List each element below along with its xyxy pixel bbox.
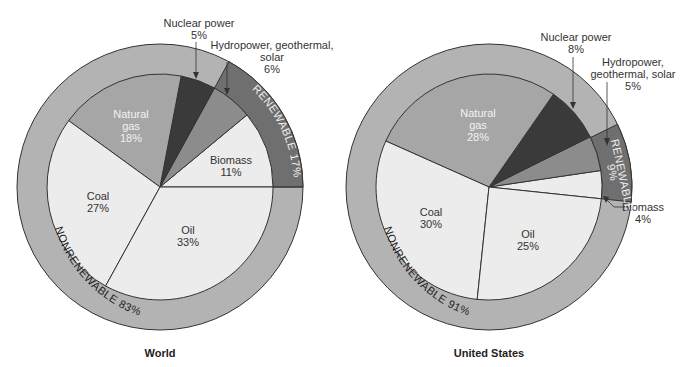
world-label-natural-gas-2: gas bbox=[122, 120, 140, 132]
us-pie: Natural gas 28% Coal 30% Oil 25% Nuclear… bbox=[346, 31, 676, 359]
world-title: World bbox=[145, 347, 176, 359]
us-title: United States bbox=[454, 347, 524, 359]
world-label-oil: Oil bbox=[181, 224, 194, 236]
us-label-hydro: Hydropower, bbox=[602, 56, 664, 68]
us-label-coal-pct: 30% bbox=[420, 218, 442, 230]
us-label-natural-gas-pct: 28% bbox=[467, 131, 489, 143]
chart-canvas: Natural gas 18% Coal 27% Oil 33% Biomass… bbox=[0, 0, 699, 367]
us-label-natural-gas: Natural bbox=[460, 107, 495, 119]
world-label-natural-gas: Natural bbox=[113, 108, 148, 120]
us-label-oil-pct: 25% bbox=[517, 240, 539, 252]
world-label-nuclear: Nuclear power bbox=[164, 17, 235, 29]
us-label-nuclear: Nuclear power bbox=[541, 31, 612, 43]
world-label-coal-pct: 27% bbox=[87, 202, 109, 214]
world-label-natural-gas-pct: 18% bbox=[120, 132, 142, 144]
us-label-biomass-pct: 4% bbox=[635, 213, 651, 225]
world-label-coal: Coal bbox=[87, 190, 110, 202]
world-label-hydro-2: solar bbox=[260, 51, 284, 63]
world-label-biomass: Biomass bbox=[210, 154, 253, 166]
us-label-nuclear-pct: 8% bbox=[568, 43, 584, 55]
us-label-hydro-2: geothermal, solar bbox=[591, 68, 676, 80]
us-label-hydro-pct: 5% bbox=[625, 80, 641, 92]
world-label-hydro: Hydropower, geothermal, bbox=[211, 39, 334, 51]
us-label-oil: Oil bbox=[521, 228, 534, 240]
us-label-coal: Coal bbox=[420, 206, 443, 218]
world-label-biomass-pct: 11% bbox=[220, 166, 241, 178]
us-label-natural-gas-2: gas bbox=[469, 119, 487, 131]
world-label-nuclear-pct: 5% bbox=[191, 29, 207, 41]
world-pie: Natural gas 18% Coal 27% Oil 33% Biomass… bbox=[17, 17, 333, 359]
world-label-oil-pct: 33% bbox=[177, 236, 199, 248]
world-label-hydro-pct: 6% bbox=[264, 63, 280, 75]
